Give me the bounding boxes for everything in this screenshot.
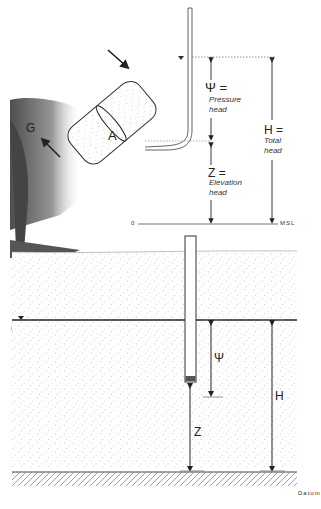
msl-label: MSL	[280, 220, 295, 226]
diagram-canvas	[0, 0, 321, 509]
water-level-icon	[178, 56, 184, 60]
soil-region	[12, 252, 297, 468]
pressure-head-line1: Pressure	[209, 95, 241, 104]
outflow-label: G	[26, 121, 35, 135]
datum-hatch	[12, 472, 297, 486]
total-head-symbol: H =	[264, 123, 283, 137]
elevation-head-line2: head	[209, 188, 227, 197]
total-head-line2: head	[264, 146, 282, 155]
pressure-head-symbol: Ψ =	[205, 80, 227, 95]
zero-reference-label: 0	[131, 220, 135, 226]
bottom-elevation-label: Z	[194, 425, 201, 439]
datum-label: Datum	[298, 490, 321, 496]
bottom-total-label: H	[275, 389, 284, 403]
pressure-head-line2: head	[209, 105, 227, 114]
inflow-arrow-icon	[108, 50, 126, 66]
piezometer-tube	[185, 236, 196, 382]
cross-section-label: A	[108, 128, 117, 143]
total-head-line1: Total	[264, 136, 281, 145]
bottom-pressure-label: Ψ	[214, 351, 224, 365]
elevation-head-line1: Elevation	[209, 178, 242, 187]
